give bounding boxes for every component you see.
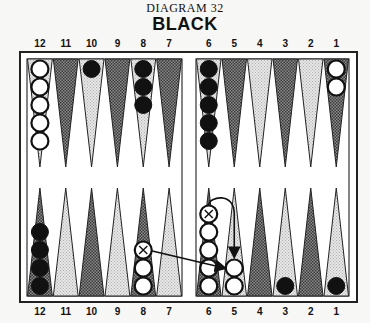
right-half — [196, 59, 349, 296]
black-checker-top-6[interactable] — [200, 133, 217, 150]
black-checker-bottom-1[interactable] — [328, 278, 345, 295]
black-checker-top-8[interactable] — [135, 61, 152, 78]
white-checker-bottom-8[interactable] — [135, 260, 152, 277]
black-checker-bottom-12[interactable] — [31, 260, 48, 277]
left-half — [27, 59, 182, 296]
black-checker-bottom-3[interactable] — [277, 278, 294, 295]
white-checker-bottom-5[interactable] — [226, 278, 243, 295]
white-checker-top-12[interactable] — [31, 79, 48, 96]
black-checker-top-6[interactable] — [200, 97, 217, 114]
white-checker-bottom-6[interactable] — [200, 278, 217, 295]
white-checker-bottom-6[interactable] — [200, 224, 217, 241]
black-checker-top-6[interactable] — [200, 61, 217, 78]
white-checker-bottom-8[interactable] — [135, 278, 152, 295]
black-checker-top-6[interactable] — [200, 115, 217, 132]
white-checker-top-1[interactable] — [328, 79, 345, 96]
backgammon-board — [0, 0, 370, 323]
black-checker-top-8[interactable] — [135, 79, 152, 96]
white-checker-top-1[interactable] — [328, 61, 345, 78]
black-checker-bottom-12[interactable] — [31, 278, 48, 295]
black-checker-top-10[interactable] — [83, 61, 100, 78]
white-checker-top-12[interactable] — [31, 61, 48, 78]
black-checker-top-8[interactable] — [135, 97, 152, 114]
black-checker-bottom-12[interactable] — [31, 224, 48, 241]
white-checker-bottom-6[interactable] — [200, 260, 217, 277]
black-checker-top-6[interactable] — [200, 79, 217, 96]
white-checker-top-12[interactable] — [31, 133, 48, 150]
white-checker-bottom-5[interactable] — [226, 260, 243, 277]
white-checker-top-12[interactable] — [31, 115, 48, 132]
black-checker-bottom-12[interactable] — [31, 242, 48, 259]
white-checker-top-12[interactable] — [31, 97, 48, 114]
white-checker-bottom-6[interactable] — [200, 242, 217, 259]
